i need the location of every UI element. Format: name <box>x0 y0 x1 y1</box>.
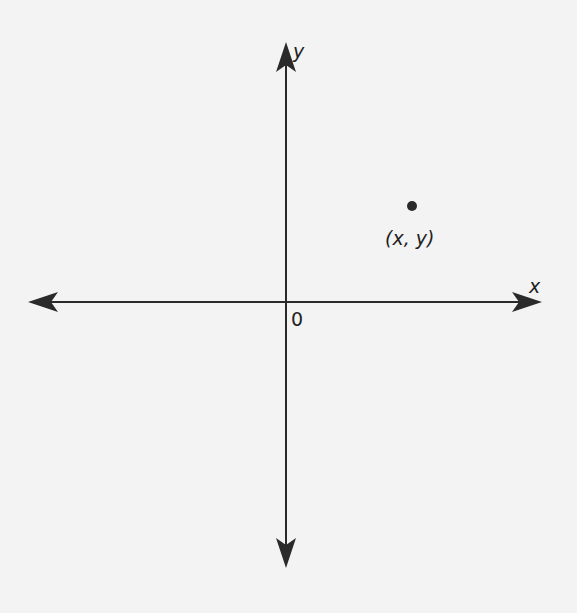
x-axis-label: x <box>529 277 540 296</box>
point-label: (x, y) <box>385 229 434 248</box>
axes-graphic <box>0 0 577 613</box>
y-axis-label: y <box>293 42 304 61</box>
point-marker <box>407 201 417 211</box>
origin-label: 0 <box>291 310 303 329</box>
coordinate-plane: y x 0 (x, y) <box>0 0 577 613</box>
